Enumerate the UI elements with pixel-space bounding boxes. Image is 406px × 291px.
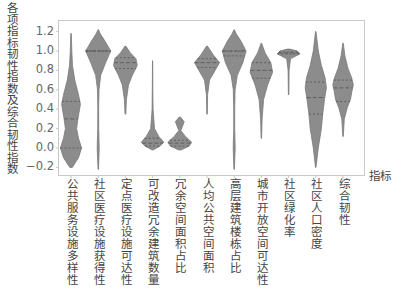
- x-tick-label: 城市开放空间可达性: [255, 178, 268, 286]
- y-tick-label: 1.2: [20, 24, 54, 38]
- violin-body: [250, 43, 273, 138]
- y-tick-label: 0.4: [20, 101, 54, 115]
- violin-body: [305, 32, 326, 168]
- violin-body: [114, 46, 138, 114]
- y-tick-label: 0.0: [20, 140, 54, 154]
- violin-body: [277, 49, 300, 95]
- x-tick-label: 可改造冗余建筑数量: [146, 178, 159, 286]
- violin-body: [141, 61, 164, 150]
- y-tick-label: 1.0: [20, 43, 54, 57]
- violin-body: [333, 43, 354, 136]
- x-axis-label: 指标: [369, 167, 391, 183]
- y-tick-label: 0.6: [20, 82, 54, 96]
- violin-body: [168, 117, 192, 150]
- violin-body: [60, 34, 81, 168]
- x-tick-label: 社区人口密度: [309, 178, 322, 250]
- x-tick-label: 人均公共空间面积: [201, 178, 214, 274]
- y-axis-label: 各项指标韧性指数及综合韧性指数: [4, 2, 18, 175]
- x-tick-label: 定点医疗设施可达性: [119, 178, 132, 286]
- x-tick-label: 高层建筑楼栋占比: [228, 178, 241, 274]
- violin-body: [195, 46, 220, 114]
- x-tick-label: 公共服务设施多样性: [65, 178, 78, 286]
- x-tick-label: 社区绿化率: [282, 178, 295, 238]
- violins-group: [60, 30, 353, 170]
- y-tick-label: 0.2: [20, 121, 54, 135]
- x-tick-label: 社区医疗设施获得性: [92, 178, 105, 286]
- x-tick-label: 冗余空间面积占比: [173, 178, 186, 274]
- y-tick-label: 0.8: [20, 62, 54, 76]
- y-tick-label: −0.2: [20, 159, 54, 173]
- x-tick-label: 综合韧性: [337, 178, 350, 226]
